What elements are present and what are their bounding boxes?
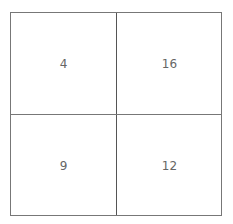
grid-cell-top-left: 4: [11, 13, 116, 114]
number-grid: 4 16 9 12: [10, 12, 222, 216]
grid-cell-top-right: 16: [117, 13, 222, 114]
grid-cell-bottom-right: 12: [117, 115, 222, 216]
grid-cell-bottom-left: 9: [11, 115, 116, 216]
